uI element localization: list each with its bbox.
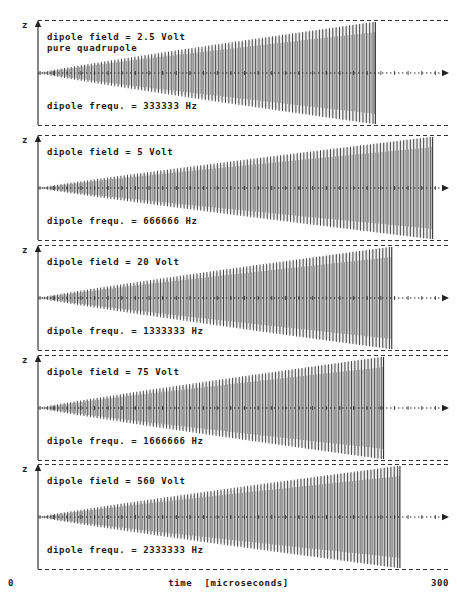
dipole-frequency-label: dipole frequ. = 2333333 Hz (47, 545, 203, 556)
dipole-frequency-label: dipole frequ. = 1666666 Hz (47, 436, 203, 447)
z-axis-label: z (22, 135, 27, 145)
dipole-frequency-label: dipole frequ. = 333333 Hz (47, 101, 197, 112)
oscillation-panel: zdipole field = 2.5 Voltpure quadrupoled… (0, 18, 457, 128)
oscillation-panel: zdipole field = 560 Voltdipole frequ. = … (0, 462, 457, 572)
time-axis-arrowhead (442, 514, 449, 520)
quadrupole-mode-label: pure quadrupole (47, 43, 137, 54)
z-axis-label: z (22, 20, 27, 30)
x-axis-title: time [microseconds] (0, 578, 457, 589)
time-axis-arrowhead (442, 185, 449, 191)
z-axis-label: z (22, 464, 27, 474)
z-axis-label: z (22, 355, 27, 365)
dipole-frequency-label: dipole frequ. = 1333333 Hz (47, 326, 203, 337)
dipole-field-label: dipole field = 560 Volt (47, 476, 185, 487)
x-axis-labels: 0 time [microseconds] 300 (0, 578, 457, 598)
dipole-field-label: dipole field = 2.5 Volt (47, 32, 185, 43)
z-axis-arrowhead (35, 245, 41, 252)
dipole-field-label: dipole field = 75 Volt (47, 367, 179, 378)
dipole-field-label: dipole field = 20 Volt (47, 257, 179, 268)
time-axis-arrowhead (442, 70, 449, 76)
z-axis-arrowhead (35, 135, 41, 142)
oscillation-figure: zdipole field = 2.5 Voltpure quadrupoled… (0, 0, 457, 604)
dipole-frequency-label: dipole frequ. = 666666 Hz (47, 216, 197, 227)
oscillation-panel: zdipole field = 75 Voltdipole frequ. = 1… (0, 353, 457, 463)
x-axis-max-label: 300 (431, 578, 449, 589)
time-axis-arrowhead (442, 405, 449, 411)
dipole-field-label: dipole field = 5 Volt (47, 147, 173, 158)
oscillation-panel: zdipole field = 20 Voltdipole frequ. = 1… (0, 243, 457, 353)
z-axis-label: z (22, 245, 27, 255)
oscillation-panel: zdipole field = 5 Voltdipole frequ. = 66… (0, 133, 457, 243)
time-axis-arrowhead (442, 295, 449, 301)
